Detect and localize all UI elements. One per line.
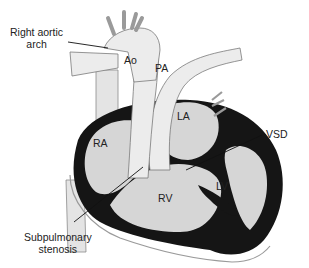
label-subpulmonary-line2: stenosis	[24, 243, 92, 255]
label-right-aortic-arch-line2: arch	[10, 38, 63, 50]
label-ao: Ao	[124, 54, 137, 66]
leader-right-aortic-arch	[68, 42, 108, 48]
label-pa: PA	[155, 62, 168, 74]
label-subpulmonary-stenosis: Subpulmonary stenosis	[24, 231, 92, 255]
label-lv: LV	[216, 180, 228, 192]
label-subpulmonary-line1: Subpulmonary	[24, 231, 92, 243]
label-right-aortic-arch: Right aortic arch	[10, 26, 63, 50]
label-ra: RA	[93, 137, 108, 149]
label-la: LA	[177, 110, 190, 122]
label-rv: RV	[158, 192, 172, 204]
label-right-aortic-arch-line1: Right aortic	[10, 26, 63, 38]
label-vsd: VSD	[266, 128, 288, 140]
